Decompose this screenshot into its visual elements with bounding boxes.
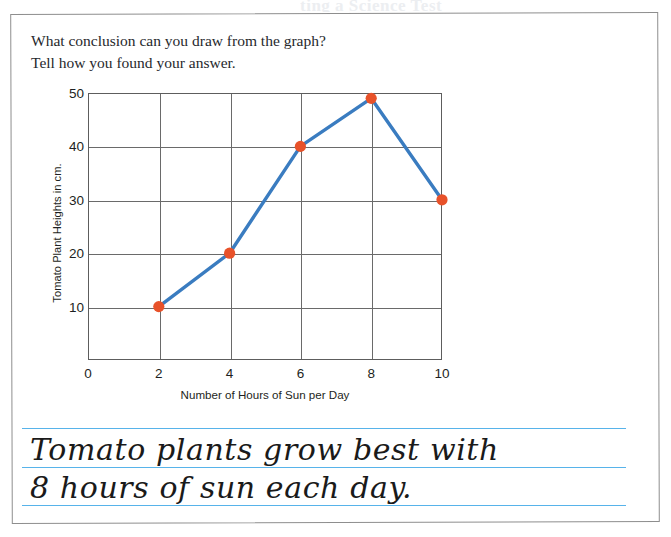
x-tick-label: 8 xyxy=(367,366,375,381)
data-point-marker xyxy=(366,93,377,104)
line-chart: 1020304050 0246810 Tomato Plant Heights … xyxy=(30,85,460,395)
x-tick-label: 10 xyxy=(434,366,449,381)
data-point-marker xyxy=(295,141,306,152)
rule-line-top xyxy=(22,428,626,429)
series-line xyxy=(159,98,442,306)
scan-bleed-text: ting a Science Test xyxy=(300,0,640,12)
data-point-marker xyxy=(153,301,164,312)
x-tick-label: 4 xyxy=(226,366,234,381)
worksheet-page: ting a Science Test What conclusion can … xyxy=(0,0,671,537)
question-line-1: What conclusion can you draw from the gr… xyxy=(31,30,471,52)
answer-line-1: Tomato plants grow best with xyxy=(30,432,499,467)
x-axis-ticks: 0246810 xyxy=(88,366,442,386)
answer-line-2: 8 hours of sun each day. xyxy=(30,470,412,505)
x-tick-label: 6 xyxy=(297,366,305,381)
y-tick-label: 50 xyxy=(54,86,84,101)
data-point-marker xyxy=(436,194,447,205)
question-line-2: Tell how you found your answer. xyxy=(31,52,471,74)
data-series xyxy=(88,93,442,360)
question-prompt: What conclusion can you draw from the gr… xyxy=(31,30,471,74)
x-tick-label: 2 xyxy=(155,366,163,381)
x-tick-label: 0 xyxy=(84,366,92,381)
rule-line-middle xyxy=(22,467,626,468)
data-point-marker xyxy=(224,248,235,259)
x-axis-title: Number of Hours of Sun per Day xyxy=(88,388,442,401)
rule-line-bottom xyxy=(22,505,626,506)
y-axis-title: Tomato Plant Heights in cm. xyxy=(51,143,63,323)
